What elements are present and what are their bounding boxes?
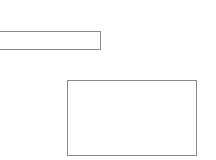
text-area-field[interactable] (67, 80, 197, 156)
text-input-field[interactable] (0, 31, 101, 50)
form-canvas (0, 0, 216, 160)
